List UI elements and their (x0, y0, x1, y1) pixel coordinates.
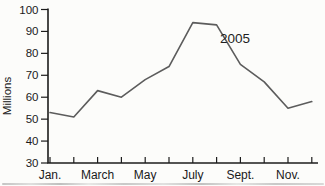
x-axis-month-label: Jan. (39, 168, 62, 182)
y-axis-title: Millions (1, 77, 13, 116)
axis-lines (48, 9, 318, 164)
line-chart: 10090807060504030Jan.MarchMayJulySept.No… (0, 0, 325, 186)
y-axis-tick-label: 100 (19, 4, 38, 16)
y-axis-tick-label: 90 (26, 25, 39, 37)
x-axis-month-label: July (182, 168, 203, 182)
y-axis-tick-label: 30 (26, 157, 39, 169)
x-axis-month-label: Nov. (276, 168, 300, 182)
x-axis-month-label: March (81, 168, 114, 182)
data-series-2005 (50, 23, 312, 117)
x-axis-month-label: Sept. (226, 168, 254, 182)
data-line-2005 (50, 23, 312, 117)
x-axis-month-label: May (134, 168, 157, 182)
y-axis-tick-label: 50 (26, 113, 39, 125)
y-axis-tick-label: 40 (26, 135, 39, 147)
y-axis-tick-label: 70 (26, 69, 39, 81)
cropped-caption-artifact (2, 183, 324, 185)
series-year-annotation: 2005 (220, 31, 250, 46)
textbook-line-chart-figure: 10090807060504030Jan.MarchMayJulySept.No… (0, 0, 325, 186)
y-axis-tick-label: 60 (26, 91, 39, 103)
y-axis-tick-label: 80 (26, 47, 39, 59)
